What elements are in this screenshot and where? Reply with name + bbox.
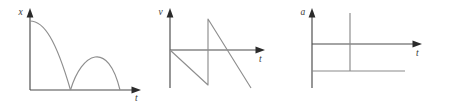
velocity-y-axis-arrow-icon: [167, 8, 174, 18]
acceleration-y-axis-label: a: [301, 7, 306, 17]
acceleration-graph-panel: a t: [290, 0, 452, 104]
acceleration-x-axis-label: t: [416, 48, 419, 58]
velocity-x-axis-label: t: [259, 54, 262, 64]
kinematics-graphs-figure: x t v t: [0, 0, 452, 104]
velocity-graph-panel: v t: [145, 0, 295, 104]
velocity-y-axis-label: v: [159, 7, 164, 17]
position-y-axis-label: x: [18, 7, 24, 17]
acceleration-y-axis-arrow-icon: [309, 8, 316, 18]
position-x-axis-label: t: [135, 93, 138, 103]
acceleration-x-axis-arrow-icon: [413, 41, 423, 48]
position-y-axis-arrow-icon: [27, 8, 34, 18]
position-rebound-arc: [71, 57, 121, 90]
velocity-x-axis-arrow-icon: [256, 47, 266, 54]
position-graph-panel: x t: [0, 0, 150, 104]
position-first-fall-arc: [30, 21, 71, 90]
velocity-sawtooth-curve: [170, 19, 251, 88]
